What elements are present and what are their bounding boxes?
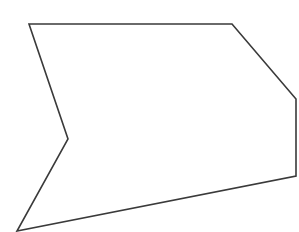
diagram-svg — [0, 0, 299, 232]
diagram-canvas — [0, 0, 299, 232]
concave-hexagon-shape — [17, 24, 296, 231]
